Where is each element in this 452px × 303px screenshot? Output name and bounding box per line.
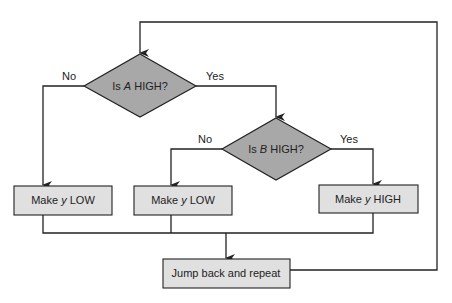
edge-label-a-no: No xyxy=(62,70,76,82)
a-yes-connector xyxy=(196,86,276,117)
jump-back-label: Jump back and repeat xyxy=(172,267,281,279)
b-yes-connector xyxy=(331,149,373,184)
process-low-1-label: Make y LOW xyxy=(31,194,95,206)
flowchart-canvas xyxy=(0,0,452,303)
process-low-2-label: Make y LOW xyxy=(151,194,215,206)
edge-label-b-yes: Yes xyxy=(340,133,358,145)
merge-connector xyxy=(43,213,373,233)
edge-label-b-no: No xyxy=(198,133,212,145)
b-no-connector xyxy=(171,149,222,185)
process-high-label: Make y HIGH xyxy=(335,193,401,205)
edge-label-a-yes: Yes xyxy=(206,70,224,82)
a-no-connector xyxy=(43,86,84,185)
decision-a-label: Is A HIGH? xyxy=(112,80,168,92)
decision-b-label: Is B HIGH? xyxy=(248,143,304,155)
